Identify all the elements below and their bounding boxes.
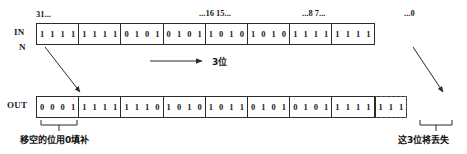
output-register-bit: 1 <box>226 97 236 117</box>
output-register-bit: 1 <box>110 97 120 117</box>
output-register-bit: 1 <box>132 97 142 117</box>
output-register-bit: 0 <box>37 97 47 117</box>
zero-fill-caption: 移空的位用0填补 <box>20 133 89 146</box>
output-register-bit: 1 <box>343 97 353 117</box>
output-register-bit: 0 <box>174 97 184 117</box>
discarded-bits-brace <box>420 120 452 131</box>
shift-amount-label: 3位 <box>212 55 227 68</box>
output-register-bit: 1 <box>79 97 89 117</box>
output-register-bit: 0 <box>248 97 258 117</box>
output-register-bit: 0 <box>58 97 68 117</box>
output-register-bit: 0 <box>152 97 162 117</box>
output-register-bit: 1 <box>164 97 174 117</box>
output-register-nibble: 0001 <box>37 97 79 117</box>
output-register-bit: 1 <box>321 97 331 117</box>
output-register-bit: 0 <box>311 97 321 117</box>
output-register-bit: 1 <box>89 97 99 117</box>
output-register-bit: 1 <box>142 97 152 117</box>
output-register-bit: 1 <box>279 97 289 117</box>
output-register-nibble: 1110 <box>121 97 163 117</box>
output-row-label: OUT <box>7 100 27 110</box>
output-register: 00011111111010101011010101011111111 <box>36 96 407 118</box>
discarded-bits-mapping-arrow <box>413 47 443 92</box>
output-register-bit: 1 <box>68 97 78 117</box>
output-register-discarded-bit: 1 <box>376 97 386 117</box>
output-register-bit: 1 <box>100 97 110 117</box>
zero-fill-brace <box>41 120 77 131</box>
output-register-nibble: 1010 <box>164 97 206 117</box>
output-register-discarded-bit: 1 <box>386 97 396 117</box>
output-register-bit: 1 <box>300 97 310 117</box>
output-register-bit: 0 <box>216 97 226 117</box>
bit-shift-diagram: 31... ...16 15... ...8 7... ...0 IN N 11… <box>0 0 467 154</box>
shift-left-mapping-arrow <box>45 47 80 92</box>
output-register-bit: 0 <box>269 97 279 117</box>
output-register-nibble: 1111 <box>79 97 121 117</box>
output-register-bit: 0 <box>47 97 57 117</box>
output-register-nibble: 0101 <box>290 97 332 117</box>
output-register-bit: 0 <box>290 97 300 117</box>
output-register-bit: 0 <box>194 97 204 117</box>
output-register-discarded-nibble: 111 <box>375 96 408 118</box>
diagram-lines-overlay <box>0 0 467 154</box>
output-register-bit: 1 <box>258 97 268 117</box>
output-register-bit: 1 <box>237 97 247 117</box>
output-register-nibble: 1011 <box>206 97 248 117</box>
output-register-nibble: 1111 <box>332 97 374 117</box>
output-register-discarded-bit: 1 <box>396 97 406 117</box>
bits-lost-caption: 这3位将丢失 <box>398 133 449 146</box>
output-register-bit: 1 <box>184 97 194 117</box>
output-register-bit: 1 <box>363 97 373 117</box>
output-register-bit: 1 <box>332 97 342 117</box>
output-register-nibble: 0101 <box>248 97 290 117</box>
output-register-bit: 1 <box>353 97 363 117</box>
output-register-bit: 1 <box>206 97 216 117</box>
output-register-bit: 1 <box>121 97 131 117</box>
